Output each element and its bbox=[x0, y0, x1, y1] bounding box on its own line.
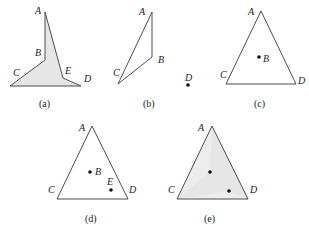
figure-canvas: A B C E D (a) A B C D (b) A B C D (c) A … bbox=[0, 0, 309, 230]
panel-b: A B C D (b) bbox=[113, 6, 193, 110]
label-d: D bbox=[249, 184, 258, 195]
triangle-abc bbox=[118, 12, 152, 84]
caption-c: (c) bbox=[254, 98, 265, 110]
label-e: E bbox=[64, 65, 71, 76]
panel-e: A C D (e) bbox=[168, 122, 258, 225]
label-a: A bbox=[78, 122, 86, 133]
label-e: E bbox=[106, 176, 113, 187]
triangle-acd bbox=[57, 126, 128, 199]
label-a: A bbox=[247, 6, 255, 17]
label-d: D bbox=[184, 72, 193, 83]
label-c: C bbox=[48, 184, 55, 195]
point-b bbox=[257, 55, 261, 59]
label-b: B bbox=[158, 54, 164, 65]
triangle-acd bbox=[226, 11, 296, 84]
interior-point-2 bbox=[227, 189, 231, 193]
label-d: D bbox=[83, 73, 92, 84]
caption-d: (d) bbox=[85, 213, 97, 225]
label-d: D bbox=[297, 75, 306, 86]
panel-c: A B C D (c) bbox=[220, 6, 306, 110]
label-c: C bbox=[220, 69, 227, 80]
label-c: C bbox=[168, 184, 175, 195]
label-d: D bbox=[128, 184, 137, 195]
label-a: A bbox=[138, 6, 146, 17]
interior-point-1 bbox=[208, 170, 212, 174]
label-c: C bbox=[13, 67, 20, 78]
label-c: C bbox=[113, 67, 120, 78]
point-e bbox=[109, 188, 113, 192]
panel-a: A B C E D (a) bbox=[10, 5, 92, 110]
label-b: B bbox=[35, 47, 41, 58]
label-a: A bbox=[34, 5, 42, 16]
point-b bbox=[88, 170, 92, 174]
point-d bbox=[186, 83, 190, 87]
caption-a: (a) bbox=[39, 98, 50, 110]
label-b: B bbox=[263, 53, 269, 64]
panel-d: A B C E D (d) bbox=[48, 122, 137, 225]
label-b: B bbox=[95, 166, 101, 177]
caption-b: (b) bbox=[143, 98, 155, 110]
caption-e: (e) bbox=[204, 213, 215, 225]
label-a: A bbox=[197, 122, 205, 133]
